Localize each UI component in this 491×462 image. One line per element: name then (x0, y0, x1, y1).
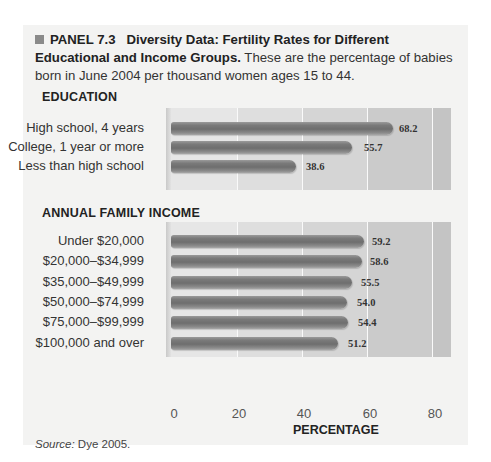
category-label: $50,000–$74,999 (43, 294, 144, 309)
bar-35000-49999 (171, 276, 352, 289)
bar-100000-and-over (171, 337, 338, 350)
bar-value-label: 59.2 (372, 236, 390, 247)
gridline (367, 222, 368, 357)
bar-under-20000 (171, 235, 364, 248)
bar-value-label: 55.5 (361, 277, 379, 288)
gridline (432, 222, 433, 357)
source-label: Source: (35, 438, 75, 450)
category-label: $20,000–$34,999 (43, 253, 144, 268)
bar-college (171, 141, 352, 154)
source-text: Dye 2005. (78, 438, 130, 450)
gridline (432, 108, 433, 190)
category-label: $35,000–$49,999 (43, 274, 144, 289)
category-label: $75,000–$99,999 (43, 314, 144, 329)
source-note: Source: Dye 2005. (35, 438, 130, 450)
bar-75000-99999 (171, 316, 348, 329)
x-tick-label: 0 (170, 406, 177, 421)
x-tick-label: 60 (363, 406, 377, 421)
band (432, 108, 451, 190)
bar-value-label: 38.6 (306, 161, 324, 172)
x-tick-label: 20 (232, 406, 246, 421)
x-tick-label: 40 (297, 406, 311, 421)
x-tick-label: 80 (428, 406, 442, 421)
bar-value-label: 55.7 (364, 142, 382, 153)
bar-value-label: 58.6 (370, 256, 388, 267)
bar-less-than-high-school (171, 160, 296, 173)
category-label: High school, 4 years (26, 120, 144, 135)
band (432, 222, 451, 357)
bar-20000-34999 (171, 255, 362, 268)
bar-50000-74999 (171, 296, 347, 309)
panel-label: PANEL 7.3 (50, 32, 115, 47)
bar-value-label: 54.0 (357, 297, 375, 308)
category-label: Less than high school (18, 158, 144, 173)
figure-caption: PANEL 7.3 Diversity Data: Fertility Rate… (35, 31, 460, 85)
category-label: Under $20,000 (58, 233, 144, 248)
panel-marker-square-icon (35, 35, 44, 44)
figure-panel: PANEL 7.3 Diversity Data: Fertility Rate… (23, 25, 468, 445)
bar-value-label: 51.2 (348, 338, 366, 349)
income-section-title: ANNUAL FAMILY INCOME (42, 206, 200, 220)
bar-value-label: 68.2 (399, 123, 417, 134)
category-label: College, 1 year or more (8, 139, 144, 154)
category-label: $100,000 and over (36, 335, 144, 350)
bar-high-school (171, 122, 393, 135)
education-section-title: EDUCATION (42, 90, 117, 104)
x-axis-title: PERCENTAGE (293, 423, 379, 437)
bar-value-label: 54.4 (358, 317, 376, 328)
